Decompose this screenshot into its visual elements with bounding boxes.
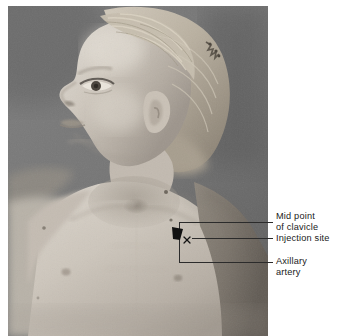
label-axillary-artery: Axillary artery — [276, 256, 307, 278]
label-injection-site: Injection site — [276, 233, 330, 244]
clinical-photograph — [8, 6, 268, 336]
photograph-image — [8, 6, 268, 336]
label-mid-point-of-clavicle: Mid point of clavicle — [276, 211, 318, 233]
clinical-figure: Mid point of clavicle Injection site Axi… — [0, 0, 342, 336]
